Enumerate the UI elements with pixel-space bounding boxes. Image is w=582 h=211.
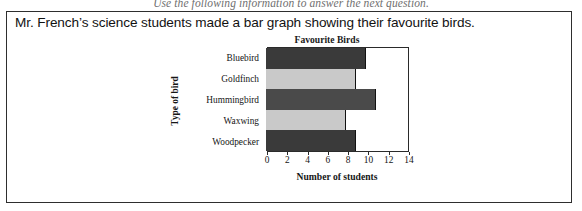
bar	[266, 130, 356, 151]
bar-row	[268, 89, 408, 110]
y-axis-tick-label: Waxwing	[177, 110, 263, 131]
x-axis-tick-label: 12	[384, 155, 393, 165]
question-statement: Mr. French’s science students made a bar…	[15, 15, 475, 30]
x-axis-tick-label: 8	[346, 155, 351, 165]
x-axis-tick-label: 6	[326, 155, 331, 165]
x-axis-tick-label: 2	[285, 155, 290, 165]
x-axis: 02468101214	[267, 152, 409, 172]
bar	[266, 48, 366, 69]
bar-row	[268, 110, 408, 131]
x-axis-title: Number of students	[257, 171, 417, 182]
bar-row	[268, 130, 408, 151]
bar-series	[268, 48, 408, 151]
x-axis-tick-label: 14	[404, 155, 413, 165]
y-axis-tick-label: Hummingbird	[177, 89, 263, 110]
chart-title: Favourite Birds	[267, 34, 387, 45]
y-axis-tick-labels: BluebirdGoldfinchHummingbirdWaxwingWoodp…	[177, 47, 263, 152]
plot-area	[267, 47, 409, 152]
bar	[266, 110, 346, 131]
bar	[266, 89, 376, 110]
x-axis-tick-label: 0	[265, 155, 270, 165]
worksheet-page: Use the following information to answer …	[0, 0, 582, 211]
bar-row	[268, 69, 408, 90]
bar	[266, 69, 356, 90]
y-axis-tick-label: Woodpecker	[177, 131, 263, 152]
y-axis-tick-label: Bluebird	[177, 47, 263, 68]
x-axis-tick-label: 10	[364, 155, 373, 165]
bar-chart: Favourite Birds Type of bird BluebirdGol…	[165, 34, 425, 199]
question-box: Mr. French’s science students made a bar…	[6, 11, 572, 203]
x-axis-tick-label: 4	[305, 155, 310, 165]
bar-row	[268, 48, 408, 69]
y-axis-tick-label: Goldfinch	[177, 68, 263, 89]
instruction-line: Use the following information to answer …	[0, 0, 582, 10]
